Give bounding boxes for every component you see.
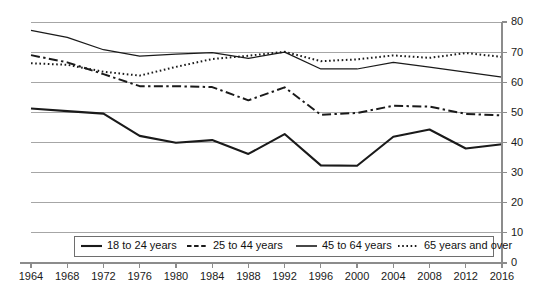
y-tick-label-40: 40 <box>511 136 523 148</box>
series-line-25-to-44-years <box>31 55 502 115</box>
x-tick-label-1964: 1964 <box>19 270 43 282</box>
x-tick-label-1988: 1988 <box>236 270 260 282</box>
x-tick-label-1980: 1980 <box>164 270 188 282</box>
y-tick-label-60: 60 <box>511 76 523 88</box>
series-line-18-to-24-years <box>31 108 502 165</box>
y-tick-label-30: 30 <box>511 166 523 178</box>
x-tick-label-2000: 2000 <box>345 270 369 282</box>
y-axis-labels-group: 01020304050607080 <box>511 15 523 268</box>
x-tick-label-2004: 2004 <box>381 270 405 282</box>
x-tick-label-1972: 1972 <box>91 270 115 282</box>
series-group <box>31 30 502 165</box>
x-tick-label-1968: 1968 <box>55 270 79 282</box>
y-tick-label-20: 20 <box>511 196 523 208</box>
legend-label-1: 25 to 44 years <box>213 239 283 251</box>
x-tick-label-2016: 2016 <box>490 270 514 282</box>
gridlines-group <box>31 22 502 233</box>
x-tick-label-1996: 1996 <box>309 270 333 282</box>
x-tick-label-2012: 2012 <box>454 270 478 282</box>
y-tick-label-80: 80 <box>511 15 523 27</box>
x-tick-label-1992: 1992 <box>272 270 296 282</box>
legend-label-2: 45 to 64 years <box>322 239 392 251</box>
y-tick-label-50: 50 <box>511 106 523 118</box>
y-tick-label-0: 0 <box>511 256 517 268</box>
y-tick-label-70: 70 <box>511 46 523 58</box>
x-tick-label-1984: 1984 <box>200 270 224 282</box>
x-tick-label-2008: 2008 <box>417 270 441 282</box>
legend-label-0: 18 to 24 years <box>107 239 177 251</box>
y-tick-label-10: 10 <box>511 226 523 238</box>
series-line-45-to-64-years <box>31 30 502 77</box>
legend-label-3: 65 years and over <box>424 239 512 251</box>
chart-legend: 18 to 24 years25 to 44 years45 to 64 yea… <box>74 236 512 256</box>
x-axis-labels-group: 1964196819721976198019841988199219962000… <box>19 270 514 282</box>
x-tick-label-1976: 1976 <box>127 270 151 282</box>
line-chart: 01020304050607080 1964196819721976198019… <box>0 0 558 301</box>
chart-container: 01020304050607080 1964196819721976198019… <box>0 0 558 301</box>
